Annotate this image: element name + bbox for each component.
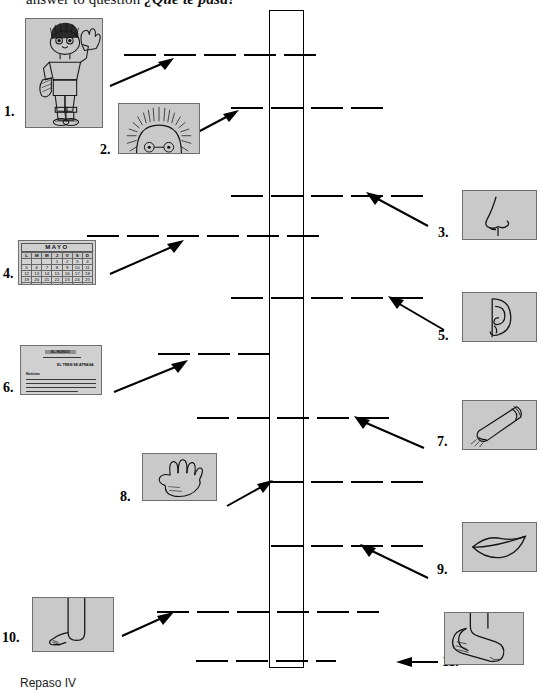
arrow-8 [225,478,277,508]
answer-dash [277,417,309,419]
arrow-7 [352,414,428,450]
foot-icon [444,612,524,665]
arrow-10 [120,610,178,638]
item-number-7: 7. [437,434,448,450]
calendar-cell: 26 [22,283,32,286]
calendar-month-label: MAYO [21,243,93,252]
calendar-cell: 29 [52,283,62,286]
answer-line-11[interactable] [196,660,336,663]
answer-dash [311,545,343,547]
item-number-2: 2. [100,142,111,158]
answer-dash [311,107,343,109]
answer-dash [197,417,229,419]
arrow-4 [108,238,186,276]
instruction-emphasis: ¿Qué te pasa? [144,0,236,7]
item-number-4: 4. [3,266,14,282]
item-number-6: 6. [3,380,14,396]
answer-line-8[interactable] [271,481,451,484]
newspaper-rule [43,357,81,358]
arrow-2 [196,108,242,134]
answer-dash [238,353,270,355]
answer-dash [311,195,343,197]
calendar-cell [82,283,92,286]
answer-dash [271,107,303,109]
calendar-cell: 28 [42,283,52,286]
calendar-mayo-icon: MAYO L M M J V S D 1 2 3 [18,240,96,285]
newspaper-textline [26,379,96,380]
answer-dash [247,235,279,237]
answer-dash [351,481,383,483]
newspaper-textline [26,387,96,388]
answer-line-10[interactable] [157,611,387,614]
answer-dash [231,195,263,197]
page-footer-label: Repaso IV [20,676,76,690]
newspaper-icon: EL MUNDO EL TREN SE ATRASA Noticias [20,345,102,395]
answer-dash [317,417,349,419]
answer-dash [317,611,349,613]
answer-dash [87,235,119,237]
mouth-icon [462,522,537,572]
answer-dash [287,235,319,237]
item-number-5: 5. [438,328,449,344]
arrow-9 [358,542,432,580]
answer-dash [284,54,316,56]
answer-dash [167,235,199,237]
answer-dash [236,660,268,662]
answer-line-6[interactable] [158,353,288,356]
arrow-1 [108,56,178,88]
newspaper-textline [26,391,78,392]
ear-icon [462,292,537,342]
arrow-6 [112,358,190,394]
item-number-8: 8. [120,489,131,505]
answer-dash [276,660,308,662]
answer-dash [231,297,263,299]
answer-dash [311,481,343,483]
instruction-heading: answer to question ¿Qué te pasa? [26,0,446,8]
answer-dash [271,297,303,299]
answer-dash [204,54,236,56]
answer-dash [271,545,303,547]
newspaper-subhead: Noticias [26,372,40,376]
item-number-3: 3. [438,225,449,241]
calendar-cell: 30 [62,283,72,286]
finger-icon [462,400,537,450]
newspaper-textline [26,383,96,384]
calendar-cell: 31 [72,283,82,286]
item-number-10: 10. [2,630,20,646]
answer-dash [127,235,159,237]
answer-dash [207,235,239,237]
newspaper-headline: EL TREN SE ATRASA [57,363,94,367]
item-number-1: 1. [4,104,15,120]
calendar-grid: L M M J V S D 1 2 3 4 [21,252,93,285]
arm-icon [32,597,114,652]
hand-icon [142,453,217,501]
answer-dash [351,297,383,299]
answer-dash [244,54,276,56]
arrow-3 [364,190,432,228]
answer-dash [311,297,343,299]
arrow-11 [394,655,440,669]
answer-dash [391,481,423,483]
instruction-text: answer to question [26,0,144,7]
calendar-week-row: 26 27 28 29 30 31 [22,283,93,286]
answer-dash [198,353,230,355]
hair-head-icon [118,103,200,154]
answer-dash [237,611,269,613]
answer-dash [271,195,303,197]
nose-icon [462,190,537,240]
newspaper-masthead: EL MUNDO [45,350,76,354]
answer-dash [316,660,336,662]
answer-dash [158,353,190,355]
calendar-cell: 27 [32,283,42,286]
answer-dash [277,611,309,613]
answer-dash [237,417,269,419]
answer-dash [351,107,383,109]
newspaper-body: EL MUNDO EL TREN SE ATRASA Noticias [21,346,101,394]
item-number-9: 9. [437,562,448,578]
answer-dash [197,611,229,613]
body-figure-icon [25,18,103,128]
answer-dash [196,660,228,662]
answer-line-2[interactable] [231,107,391,110]
arrow-5 [386,294,448,332]
worksheet-page: answer to question ¿Qué te pasa? [0,0,540,692]
